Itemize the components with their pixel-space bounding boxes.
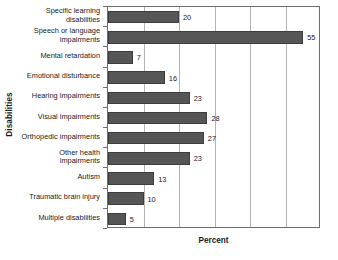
bar-value-label: 13 — [158, 174, 166, 183]
bar-value-label: 10 — [148, 194, 156, 203]
bar-row: 23 — [108, 92, 319, 105]
category-label: Visual impairments — [18, 107, 104, 127]
category-label: Other health impairments — [18, 147, 104, 167]
bar-value-label: 27 — [208, 134, 216, 143]
bar — [108, 51, 133, 64]
y-axis-title: Disabilities — [0, 0, 18, 228]
bar-row: 28 — [108, 112, 319, 125]
category-label: Multiple disabilities — [18, 208, 104, 228]
y-axis-title-text: Disabilities — [5, 92, 14, 136]
bar — [108, 152, 190, 165]
bar-row: 10 — [108, 192, 319, 205]
bar-value-label: 20 — [183, 13, 191, 22]
bar-value-label: 28 — [211, 113, 219, 122]
bar-chart: Disabilities Specific learning disabilit… — [0, 0, 338, 260]
bar — [108, 92, 190, 105]
bar — [108, 132, 204, 145]
bar-value-label: 7 — [137, 53, 141, 62]
bar-row: 5 — [108, 213, 319, 226]
bar — [108, 11, 179, 24]
bar-value-label: 16 — [169, 73, 177, 82]
category-axis-labels: Specific learning disabilitiesSpeech or … — [18, 6, 104, 228]
bar-value-label: 55 — [307, 33, 315, 42]
bar — [108, 71, 165, 84]
bar — [108, 172, 154, 185]
category-label: Speech or language impairments — [18, 26, 104, 46]
bar — [108, 31, 303, 44]
bar-row: 13 — [108, 172, 319, 185]
category-label: Traumatic brain injury — [18, 188, 104, 208]
bar — [108, 213, 126, 226]
bar-value-label: 23 — [194, 93, 202, 102]
bar-row: 27 — [108, 132, 319, 145]
category-label: Hearing impairments — [18, 87, 104, 107]
y-tick-mark — [103, 228, 107, 229]
bar-row: 20 — [108, 11, 319, 24]
bar-row: 55 — [108, 31, 319, 44]
category-label: Specific learning disabilities — [18, 6, 104, 26]
category-label: Emotional disturbance — [18, 67, 104, 87]
bar-series: 20557162328272313105 — [108, 7, 319, 227]
category-label: Autism — [18, 168, 104, 188]
bar — [108, 112, 207, 125]
bar — [108, 192, 144, 205]
x-axis-title: Percent — [107, 236, 320, 245]
bar-row: 7 — [108, 51, 319, 64]
bar-row: 23 — [108, 152, 319, 165]
category-label: Mental retardation — [18, 46, 104, 66]
bar-value-label: 5 — [130, 214, 134, 223]
category-label: Orthopedic impairments — [18, 127, 104, 147]
bar-value-label: 23 — [194, 154, 202, 163]
plot-area: 20557162328272313105 — [107, 6, 320, 228]
bar-row: 16 — [108, 71, 319, 84]
